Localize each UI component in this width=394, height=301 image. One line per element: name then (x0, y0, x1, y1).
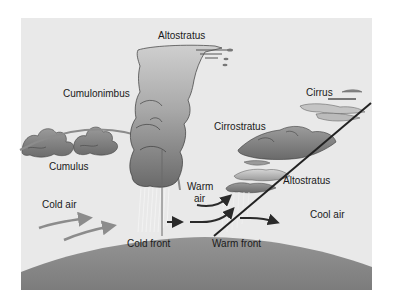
label-warm-front: Warm front (212, 238, 261, 249)
label-cumulus: Cumulus (49, 161, 88, 172)
label-cirrus: Cirrus (306, 87, 333, 98)
label-warm-air-line2: air (194, 193, 205, 204)
label-altostratus-right: Altostratus (283, 175, 330, 186)
label-cold-front: Cold front (127, 238, 170, 249)
label-cool-air: Cool air (310, 209, 344, 220)
label-cold-air: Cold air (42, 199, 76, 210)
weather-fronts-diagram (0, 0, 394, 301)
label-cumulonimbus: Cumulonimbus (63, 88, 130, 99)
label-warm-air-line1: Warm (187, 181, 213, 192)
label-cirrostratus: Cirrostratus (214, 121, 266, 132)
label-altostratus-top: Altostratus (158, 30, 205, 41)
